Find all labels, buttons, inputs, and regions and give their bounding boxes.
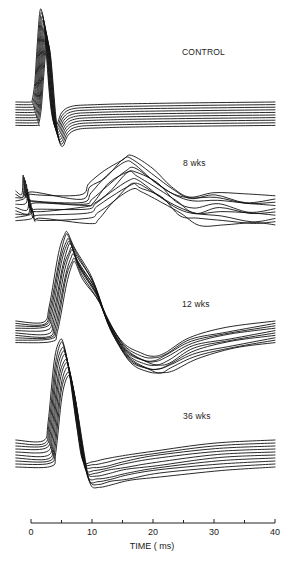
- 36wk-label: 36 wks: [183, 411, 211, 421]
- waveform-trace: [16, 171, 275, 213]
- waveform-trace: [16, 254, 275, 370]
- waveform-trace: [16, 42, 275, 146]
- waveform-trace: [16, 39, 275, 145]
- waveform-trace: [16, 167, 275, 205]
- x-tick-label-20: 20: [148, 527, 158, 537]
- waveform-trace: [16, 161, 275, 204]
- waveform-figure: [0, 0, 293, 571]
- x-tick-label-30: 30: [209, 527, 219, 537]
- x-tick-label-40: 40: [270, 527, 280, 537]
- 8wk-traces: [16, 155, 275, 226]
- waveform-trace: [16, 178, 275, 215]
- 8wk-label: 8 wks: [183, 158, 206, 168]
- 12wk-traces: [16, 231, 275, 373]
- waveform-trace: [16, 241, 275, 362]
- control-traces: [16, 9, 275, 147]
- waveform-trace: [16, 171, 275, 213]
- x-tick-label-10: 10: [87, 527, 97, 537]
- x-axis-title: TIME ( ms): [130, 541, 175, 551]
- x-axis: [31, 519, 275, 523]
- waveform-trace: [16, 157, 275, 203]
- x-tick-label-0: 0: [28, 527, 33, 537]
- 12wk-label: 12 wks: [182, 299, 210, 309]
- control-label: CONTROL: [182, 47, 225, 57]
